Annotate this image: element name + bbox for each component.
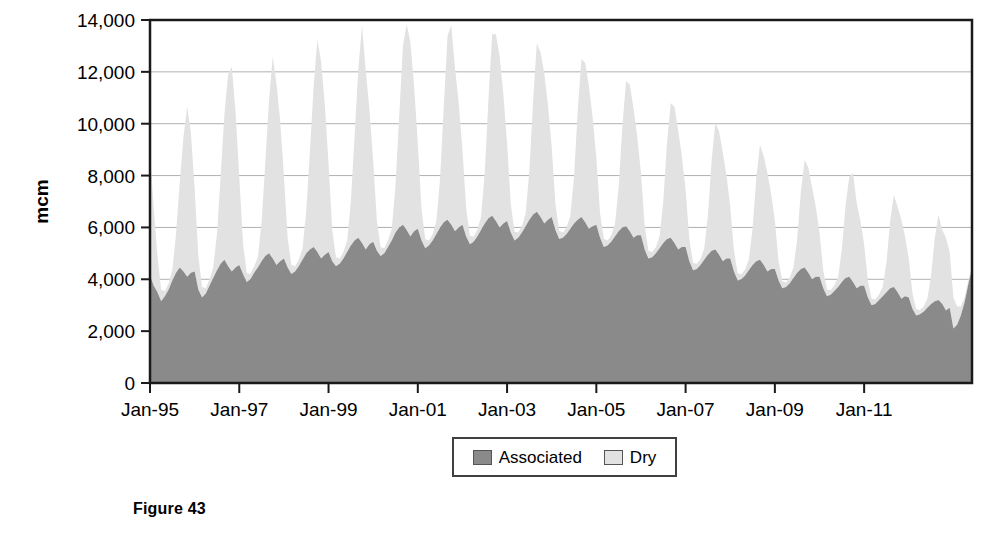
x-axis-tick-label: Jan-09	[746, 399, 804, 420]
y-axis-tick-label: 2,000	[87, 321, 135, 342]
x-axis-tick-label: Jan-95	[121, 399, 179, 420]
stacked-area-chart: 02,0004,0006,0008,00010,00012,00014,000m…	[0, 0, 1008, 420]
y-axis-tick-label: 8,000	[87, 166, 135, 187]
chart-svg: 02,0004,0006,0008,00010,00012,00014,000m…	[0, 0, 1008, 420]
x-axis-tick-label: Jan-11	[836, 399, 893, 420]
y-axis-tick-label: 6,000	[87, 217, 135, 238]
x-axis-tick-label: Jan-97	[210, 399, 268, 420]
x-axis-tick-label: Jan-03	[478, 399, 536, 420]
x-axis-tick-label: Jan-99	[299, 399, 357, 420]
chart-legend: Associated Dry	[452, 437, 677, 477]
y-axis-tick-label: 14,000	[77, 10, 135, 31]
figure-43-container: 02,0004,0006,0008,00010,00012,00014,000m…	[0, 0, 1008, 533]
legend-swatch-dry	[604, 450, 623, 465]
x-axis-tick-label: Jan-01	[389, 399, 447, 420]
legend-item-dry[interactable]: Dry	[604, 449, 656, 466]
y-axis-tick-label: 0	[124, 373, 135, 394]
y-axis-tick-label: 4,000	[87, 269, 135, 290]
x-axis-tick-label: Jan-07	[657, 399, 715, 420]
legend-swatch-associated	[473, 450, 492, 465]
x-axis-tick-label: Jan-05	[567, 399, 625, 420]
y-axis-tick-label: 12,000	[77, 62, 135, 83]
legend-label-associated: Associated	[499, 449, 582, 466]
legend-label-dry: Dry	[630, 449, 656, 466]
legend-item-associated[interactable]: Associated	[473, 449, 582, 466]
y-axis-tick-label: 10,000	[77, 114, 135, 135]
y-axis-title: mcm	[31, 179, 52, 223]
figure-caption: Figure 43	[133, 500, 206, 518]
